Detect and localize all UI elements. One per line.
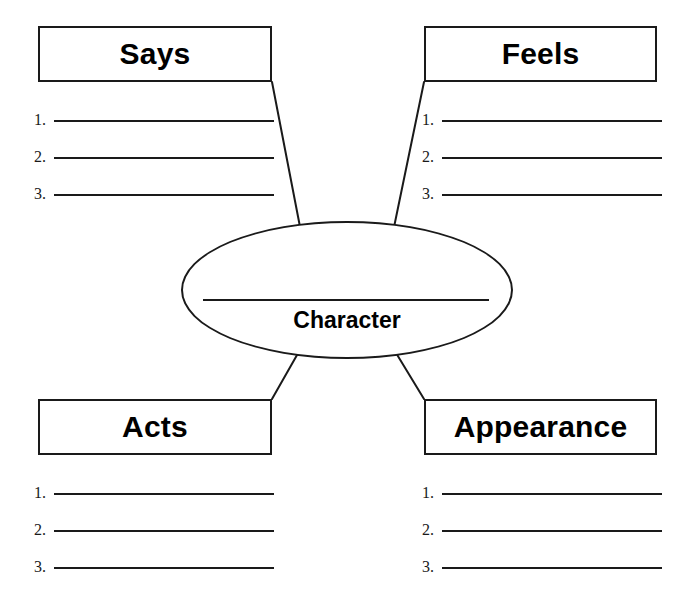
write-in-rule-feels-3[interactable] — [442, 194, 662, 196]
heading-box-acts: Acts — [38, 399, 272, 455]
write-in-row: 1. — [422, 112, 662, 149]
write-in-rule-acts-1[interactable] — [54, 493, 274, 495]
write-in-lines-appearance: 1. 2. 3. — [422, 485, 662, 596]
line-number: 2. — [34, 149, 54, 165]
write-in-rule-appearance-3[interactable] — [442, 567, 662, 569]
connector-says-to-center — [272, 82, 301, 232]
write-in-row: 3. — [34, 559, 274, 596]
write-in-rule-feels-2[interactable] — [442, 157, 662, 159]
write-in-rule-appearance-1[interactable] — [442, 493, 662, 495]
heading-label-says: Says — [120, 39, 191, 69]
write-in-row: 2. — [422, 149, 662, 186]
heading-box-feels: Feels — [424, 26, 657, 82]
line-number: 2. — [34, 522, 54, 538]
line-number: 1. — [422, 485, 442, 501]
line-number: 1. — [34, 112, 54, 128]
write-in-rule-says-2[interactable] — [54, 157, 274, 159]
write-in-row: 1. — [34, 485, 274, 522]
line-number: 3. — [34, 559, 54, 575]
write-in-rule-says-1[interactable] — [54, 120, 274, 122]
write-in-row: 2. — [34, 149, 274, 186]
line-number: 1. — [422, 112, 442, 128]
line-number: 1. — [34, 485, 54, 501]
write-in-row: 1. — [34, 112, 274, 149]
line-number: 3. — [34, 186, 54, 202]
write-in-row: 2. — [422, 522, 662, 559]
write-in-lines-acts: 1. 2. 3. — [34, 485, 274, 596]
write-in-rule-appearance-2[interactable] — [442, 530, 662, 532]
line-number: 3. — [422, 186, 442, 202]
character-write-in-rule[interactable] — [203, 299, 489, 301]
line-number: 2. — [422, 149, 442, 165]
line-number: 3. — [422, 559, 442, 575]
heading-label-feels: Feels — [502, 39, 580, 69]
ellipse-outline — [181, 221, 513, 359]
heading-label-acts: Acts — [122, 412, 188, 442]
write-in-rule-says-3[interactable] — [54, 194, 274, 196]
write-in-row: 1. — [422, 485, 662, 522]
write-in-row: 3. — [34, 186, 274, 223]
center-label-character: Character — [181, 309, 513, 332]
write-in-rule-acts-3[interactable] — [54, 567, 274, 569]
write-in-lines-says: 1. 2. 3. — [34, 112, 274, 223]
write-in-rule-acts-2[interactable] — [54, 530, 274, 532]
center-ellipse: Character — [181, 221, 513, 359]
connector-feels-to-center — [393, 82, 424, 232]
write-in-rule-feels-1[interactable] — [442, 120, 662, 122]
heading-box-says: Says — [38, 26, 272, 82]
character-graphic-organizer: Says Feels Acts Appearance 1. 2. 3. 1. 2… — [0, 0, 687, 615]
heading-box-appearance: Appearance — [424, 399, 657, 455]
heading-label-appearance: Appearance — [454, 412, 628, 442]
write-in-lines-feels: 1. 2. 3. — [422, 112, 662, 223]
write-in-row: 2. — [34, 522, 274, 559]
write-in-row: 3. — [422, 186, 662, 223]
write-in-row: 3. — [422, 559, 662, 596]
line-number: 2. — [422, 522, 442, 538]
